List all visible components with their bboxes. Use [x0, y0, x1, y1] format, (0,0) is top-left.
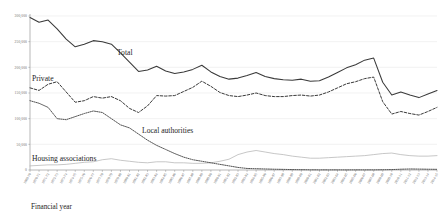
y-tick-label: 100,000: [15, 117, 27, 122]
y-tick-label: 200,000: [15, 66, 27, 71]
x-axis-tick-labels: 1969-701970-711971-721972-731973-741974-…: [23, 172, 439, 184]
y-tick-label: 150,000: [15, 91, 27, 96]
x-tick-label: 2014-15: [430, 172, 439, 184]
series-annotation-local-authorities: Local authorities: [142, 126, 193, 135]
series-annotation-total: Total: [117, 48, 133, 57]
y-tick-label: 300,000: [15, 14, 27, 19]
series-annotation-housing-associations: Housing associations: [32, 154, 96, 163]
series-line-total: [30, 18, 437, 98]
grid-lines: [30, 16, 437, 144]
series-annotation-private: Private: [32, 74, 54, 83]
y-tick-label: 0: [25, 168, 27, 172]
y-tick-label: 250,000: [15, 40, 27, 45]
y-tick-label: 50,000: [17, 143, 28, 148]
y-axis-tick-labels: 300,000250,000200,000150,000100,00050,00…: [15, 14, 30, 172]
x-axis-title: Financial year: [31, 203, 73, 211]
chart-container: 300,000250,000200,000150,000100,00050,00…: [0, 0, 443, 214]
line-chart: 300,000250,000200,000150,000100,00050,00…: [0, 0, 443, 214]
series-line-private: [30, 77, 437, 115]
